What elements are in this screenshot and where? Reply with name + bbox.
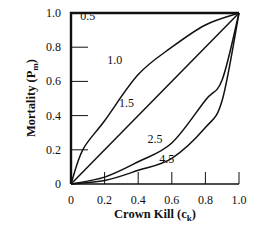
x-tick-label: 1.0 bbox=[232, 193, 247, 207]
x-tick-label: 0.4 bbox=[131, 193, 146, 207]
curve-k-1-5 bbox=[71, 13, 239, 184]
x-axis-title: Crown Kill (ck) bbox=[114, 207, 196, 223]
y-axis-title: Mortality (Pm) bbox=[24, 59, 40, 137]
x-tick-label: 0.8 bbox=[198, 193, 213, 207]
x-axis-title-paren-close: ) bbox=[192, 207, 196, 221]
y-tick-label: 0.6 bbox=[46, 74, 61, 88]
curve-label-2-5: 2.5 bbox=[148, 132, 163, 146]
y-tick-label: 0 bbox=[55, 177, 61, 191]
curve-label-4-5: 4.5 bbox=[159, 152, 174, 166]
x-tick-label: 0.6 bbox=[164, 193, 179, 207]
y-tick-label: 0.2 bbox=[46, 143, 61, 157]
y-tick-label: 1.0 bbox=[46, 6, 61, 20]
chart: 00.20.40.60.81.000.20.40.60.81.0 0.51.01… bbox=[0, 0, 260, 235]
y-axis-title-paren-close: ) bbox=[24, 59, 38, 63]
x-tick-label: 0.2 bbox=[97, 193, 112, 207]
y-tick-label: 0.8 bbox=[46, 40, 61, 54]
ticks bbox=[71, 47, 239, 184]
x-tick-label: 0 bbox=[68, 193, 74, 207]
x-axis-title-text: Crown Kill bbox=[114, 207, 174, 221]
y-tick-label: 0.4 bbox=[46, 109, 61, 123]
y-axis-title-text: Mortality bbox=[24, 85, 38, 137]
curve-label-1-5: 1.5 bbox=[119, 96, 134, 110]
curve-label-1-0: 1.0 bbox=[107, 53, 122, 67]
curve-label-0-5: 0.5 bbox=[80, 9, 95, 23]
curves bbox=[71, 13, 239, 184]
